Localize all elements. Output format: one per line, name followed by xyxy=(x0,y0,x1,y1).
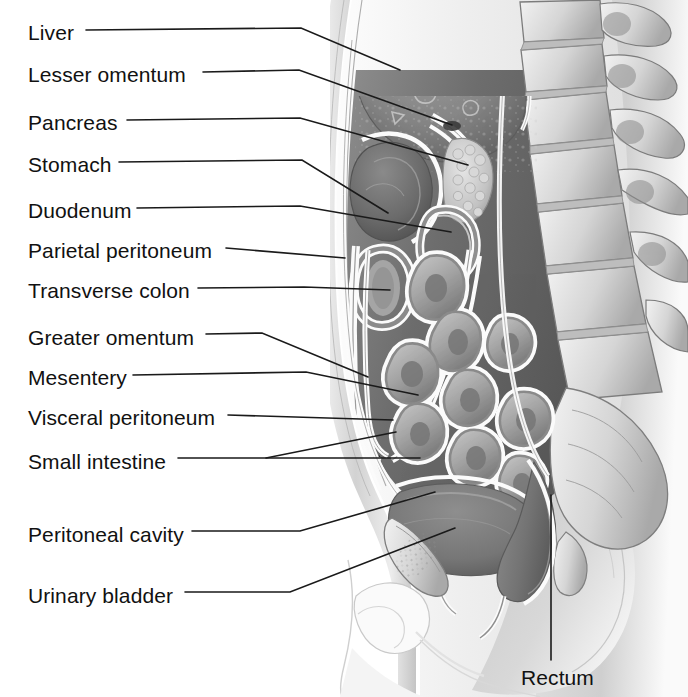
label-pancreas: Pancreas xyxy=(28,112,118,133)
label-peritoneal-cavity: Peritoneal cavity xyxy=(28,524,184,545)
label-duodenum: Duodenum xyxy=(28,200,132,221)
label-parietal-peritoneum: Parietal peritoneum xyxy=(28,240,212,261)
label-small-intestine: Small intestine xyxy=(28,451,166,472)
label-mesentery: Mesentery xyxy=(28,367,127,388)
label-transverse-colon: Transverse colon xyxy=(28,280,190,301)
label-lesser-omentum: Lesser omentum xyxy=(28,64,186,85)
label-visceral-peritoneum: Visceral peritoneum xyxy=(28,407,215,428)
label-stomach: Stomach xyxy=(28,154,112,175)
label-greater-omentum: Greater omentum xyxy=(28,327,194,348)
label-urinary-bladder: Urinary bladder xyxy=(28,585,173,606)
label-liver: Liver xyxy=(28,22,74,43)
figure-canvas: Liver Lesser omentum Pancreas Stomach Du… xyxy=(0,0,688,697)
label-rectum: Rectum xyxy=(521,667,594,688)
